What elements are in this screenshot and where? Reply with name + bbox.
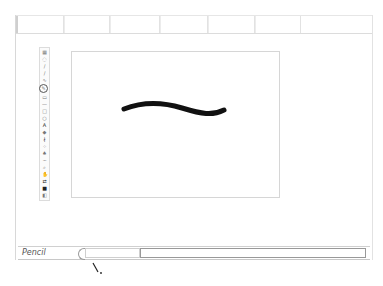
ellipse-icon[interactable]: ○ — [41, 115, 48, 121]
spray-icon[interactable]: ⁘ — [41, 143, 48, 149]
pen-icon[interactable]: / — [41, 63, 48, 69]
hand-icon[interactable]: ✋ — [41, 171, 48, 177]
tab-1[interactable] — [16, 16, 64, 33]
tab-bar — [16, 15, 372, 34]
slider-thumb[interactable] — [85, 248, 140, 258]
text-icon[interactable]: A — [41, 122, 48, 128]
stamp-icon[interactable]: ♠ — [41, 150, 48, 156]
slider-track[interactable] — [140, 248, 366, 258]
drawing-canvas[interactable] — [71, 51, 280, 198]
select-icon[interactable]: ▦ — [41, 49, 48, 55]
tab-2[interactable] — [64, 16, 110, 33]
color-swatch-icon[interactable]: ■ — [41, 185, 48, 191]
slider-left-cap[interactable] — [78, 248, 85, 260]
fill-icon[interactable]: ◆ — [41, 129, 48, 135]
zoom-icon[interactable]: ⌕ — [41, 164, 48, 170]
tool-palette: ▦◌/∕∿✎▭—□○A◆∤⁘♠~⌕✋⇄■◧ — [39, 47, 50, 201]
status-bar: Pencil — [18, 246, 370, 260]
smudge-icon[interactable]: ~ — [41, 157, 48, 163]
eraser-icon[interactable]: ▭ — [41, 94, 48, 100]
lasso-icon[interactable]: ◌ — [41, 56, 48, 62]
mouse-cursor-icon — [92, 262, 106, 276]
tab-4[interactable] — [160, 16, 208, 33]
brush-icon[interactable]: ∕ — [41, 70, 48, 76]
swap-colors-icon[interactable]: ⇄ — [41, 178, 48, 184]
reset-colors-icon[interactable]: ◧ — [41, 192, 48, 198]
line-icon[interactable]: — — [41, 101, 48, 107]
dropper-icon[interactable]: ∤ — [41, 136, 48, 142]
pencil-icon[interactable]: ✎ — [39, 84, 48, 93]
tab-5[interactable] — [208, 16, 255, 33]
bezier-icon[interactable]: ∿ — [41, 77, 48, 83]
canvas-drawing — [72, 52, 279, 197]
tab-3[interactable] — [110, 16, 160, 33]
tab-6[interactable] — [255, 16, 301, 33]
rectangle-icon[interactable]: □ — [41, 108, 48, 114]
pencil-stroke — [124, 104, 224, 114]
current-tool-label: Pencil — [22, 247, 46, 259]
app-window: ▦◌/∕∿✎▭—□○A◆∤⁘♠~⌕✋⇄■◧ Pencil — [15, 15, 373, 260]
